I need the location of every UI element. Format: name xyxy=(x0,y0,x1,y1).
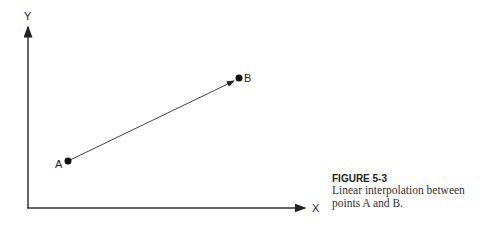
point-a-label: A xyxy=(55,158,63,170)
y-axis-label: Y xyxy=(24,10,32,22)
caption-text: Linear interpolation between points A an… xyxy=(332,184,488,210)
x-axis-label: X xyxy=(312,202,320,214)
figure-caption: FIGURE 5-3 Linear interpolation between … xyxy=(332,173,488,210)
point-a xyxy=(65,158,72,165)
interpolation-arrow xyxy=(68,81,234,161)
point-b-label: B xyxy=(244,72,251,84)
point-b xyxy=(236,75,243,82)
figure-number: FIGURE 5-3 xyxy=(332,173,488,184)
